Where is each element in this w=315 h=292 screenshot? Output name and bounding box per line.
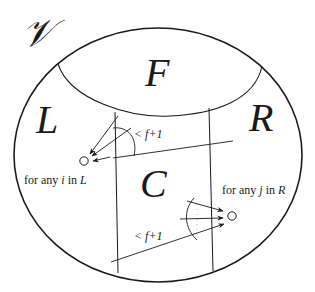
node-j <box>228 212 236 220</box>
caption-i-mid: in <box>65 173 80 187</box>
caption-i-set: L <box>79 173 87 187</box>
caption-node-i: for any i in L <box>24 173 87 187</box>
caption-j-pre: for any <box>222 183 259 197</box>
caption-j-set: R <box>277 183 286 197</box>
region-c-right-boundary <box>209 108 213 271</box>
label-region-r: R <box>248 95 273 140</box>
arrow-left-2 <box>92 128 131 156</box>
arrow-left-1 <box>90 116 118 154</box>
label-left-bound: < f+1 <box>134 127 163 141</box>
region-c-left-boundary <box>115 112 118 273</box>
label-region-f: F <box>144 50 170 95</box>
label-right-bound: < f+1 <box>134 229 163 243</box>
caption-j-mid: in <box>263 183 278 197</box>
line-left-source <box>113 141 233 158</box>
label-region-c: C <box>140 161 168 206</box>
arrow-left-3 <box>93 157 110 161</box>
diagram-canvas: 𝒱 F L R C < f+1 < f+1 for any i in L for… <box>0 0 315 292</box>
arrow-right-3 <box>111 224 224 262</box>
label-region-l: L <box>35 97 58 142</box>
arrow-right-1 <box>187 201 223 211</box>
caption-node-j: for any j in R <box>222 183 286 197</box>
caption-i-pre: for any <box>24 173 61 187</box>
node-i <box>80 157 88 165</box>
arc-left-bound <box>113 128 135 156</box>
label-universe-v: 𝒱 <box>22 12 65 54</box>
